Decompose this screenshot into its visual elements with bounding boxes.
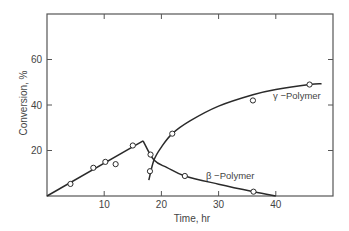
tick-labels: 10203040204060 [31, 54, 282, 210]
data-point [250, 98, 255, 103]
data-point [182, 173, 187, 178]
x-tick-label: 10 [99, 199, 111, 210]
series-line-1 [143, 141, 276, 196]
data-point [148, 152, 153, 157]
data-point [147, 169, 152, 174]
ticks [47, 14, 333, 196]
beta-polymer-label: β −Polymer [206, 170, 255, 181]
data-point [130, 143, 135, 148]
data-point [68, 181, 73, 186]
data-point [91, 165, 96, 170]
x-tick-label: 20 [156, 199, 168, 210]
y-axis-label: Conversion, % [18, 70, 29, 135]
data-point [251, 189, 256, 194]
y-tick-label: 20 [31, 145, 43, 156]
x-axis-label: Time, hr [174, 213, 211, 224]
data-point [307, 82, 312, 87]
plot-frame [47, 14, 333, 196]
data-point [113, 162, 118, 167]
x-tick-label: 40 [270, 199, 282, 210]
gamma-polymer-label: γ −Polymer [273, 90, 321, 101]
y-tick-label: 60 [31, 54, 43, 65]
data-point [170, 131, 175, 136]
y-tick-label: 40 [31, 100, 43, 111]
chart: 10203040204060 Time, hr Conversion, % γ … [0, 0, 349, 231]
data-point [103, 159, 108, 164]
x-tick-label: 30 [213, 199, 225, 210]
